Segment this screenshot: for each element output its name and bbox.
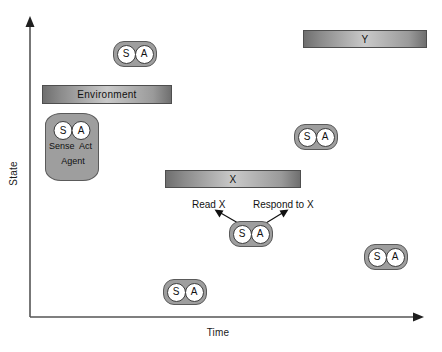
agent-name-label: Agent xyxy=(46,156,100,166)
agent-node-act: A xyxy=(72,121,91,140)
diagram-canvas: State Time Environment X Y S A S A S A S… xyxy=(0,0,442,352)
respond-to-x-annotation: Respond to X xyxy=(253,199,314,210)
x-axis-label: Time xyxy=(188,327,248,338)
y-axis-label: State xyxy=(8,152,19,196)
agent-node-sense: S xyxy=(54,121,73,140)
pod-node-sense: S xyxy=(298,128,317,147)
pod-node-sense: S xyxy=(117,45,136,64)
bar-x: X xyxy=(165,170,301,188)
x-axis-arrowhead xyxy=(413,313,424,322)
respond-to-x-arrow-line xyxy=(266,212,284,223)
pod-node-sense: S xyxy=(233,225,252,244)
agent-box: S A Sense Act Agent xyxy=(45,113,99,181)
pod-node-sense: S xyxy=(368,248,387,267)
agent-node-group: S A xyxy=(54,121,91,140)
agent-act-label: Act xyxy=(79,141,92,151)
pod-bottom-left: S A xyxy=(163,279,207,305)
pod-node-act: A xyxy=(316,128,335,147)
agent-sense-label: Sense xyxy=(49,141,75,151)
y-axis-arrowhead xyxy=(26,16,35,27)
pod-top-left: S A xyxy=(113,41,157,67)
pod-node-act: A xyxy=(135,45,154,64)
pod-node-act: A xyxy=(386,248,405,267)
bar-environment: Environment xyxy=(42,85,172,104)
pod-node-act: A xyxy=(185,283,204,302)
pod-node-act: A xyxy=(251,225,270,244)
read-x-annotation: Read X xyxy=(192,199,225,210)
bar-y: Y xyxy=(303,30,427,48)
pod-right-mid: S A xyxy=(294,124,338,150)
pod-bottom-right: S A xyxy=(364,244,408,270)
pod-node-sense: S xyxy=(167,283,186,302)
pod-center-annotated: S A xyxy=(229,221,273,247)
